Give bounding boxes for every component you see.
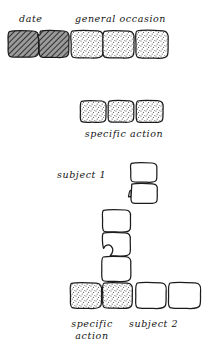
chunk-box-stippled [108, 100, 134, 122]
chunk-box-stippled [71, 30, 104, 58]
chunk-box-stippled [136, 30, 169, 58]
label-date: date [19, 13, 43, 24]
chunk-box-stippled [103, 31, 134, 58]
row-1-date-general-occasion [8, 30, 168, 58]
chunk-box-white [130, 163, 156, 183]
diagram-canvas: date general occasion specific action su… [0, 0, 213, 348]
chunk-box-stippled [80, 100, 106, 122]
row-bottom-specific-action-subject-2 [70, 282, 201, 308]
chunk-box-stippled [70, 283, 102, 309]
label-general-occasion: general occasion [75, 13, 166, 24]
chunk-box-stippled [136, 100, 163, 122]
chunk-box-hatched [8, 31, 39, 58]
chunk-box-white [168, 282, 200, 308]
column-middle-stack [102, 210, 131, 282]
chunk-boxes-svg [0, 0, 213, 348]
label-specific-action-line2: action [62, 330, 122, 341]
chunk-box-hatched [38, 30, 70, 57]
column-subject-1 [129, 163, 158, 204]
label-subject-2: subject 2 [129, 318, 178, 329]
row-2-specific-action [80, 100, 163, 122]
chunk-box-white [102, 232, 130, 256]
chunk-box-stippled [103, 282, 133, 308]
chunk-box-white [102, 210, 130, 232]
label-subject-1: subject 1 [57, 169, 106, 180]
label-specific-action-line1: specific [62, 318, 122, 329]
chunk-box-white [136, 282, 167, 308]
label-specific-action: specific action [78, 128, 170, 139]
chunk-box-white [102, 256, 131, 281]
chunk-box-white [129, 183, 158, 203]
